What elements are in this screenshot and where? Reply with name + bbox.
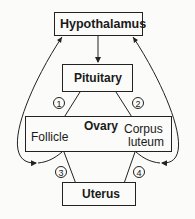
- pathway-2-badge: 2: [132, 97, 144, 109]
- uterus-box: Uterus: [62, 182, 136, 206]
- ovary-label: Ovary: [84, 120, 118, 133]
- ovary-box: Ovary Follicle Corpus luteum: [25, 116, 172, 152]
- hypothalamus-label: Hypothalamus: [60, 18, 146, 31]
- corpus-luteum-label-line2: luteum: [128, 136, 164, 149]
- pituitary-label: Pituitary: [74, 72, 122, 85]
- hypothalamus-box: Hypothalamus: [54, 12, 143, 36]
- uterus-label: Uterus: [82, 188, 120, 201]
- pathway-1-badge: 1: [53, 97, 65, 109]
- pituitary-box: Pituitary: [62, 64, 133, 92]
- follicle-label: Follicle: [31, 131, 68, 144]
- pathway-4-badge: 4: [133, 166, 145, 178]
- pathway-3-badge: 3: [55, 166, 67, 178]
